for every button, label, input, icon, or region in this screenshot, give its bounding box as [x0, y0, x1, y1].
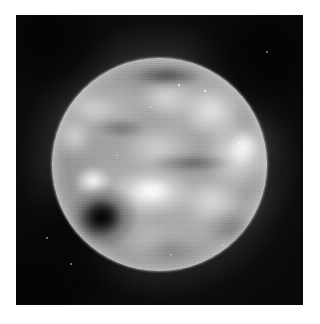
- solar-disk: [52, 58, 267, 271]
- offlimb-point-3: [266, 51, 268, 53]
- limb-brightening-ring: [52, 58, 267, 271]
- solar-corona-image: [16, 15, 303, 305]
- offlimb-point-2: [70, 263, 72, 265]
- offlimb-point-1: [46, 237, 48, 239]
- page-root: the Sun extreme-ultraviolet / soft X-ray…: [0, 0, 320, 324]
